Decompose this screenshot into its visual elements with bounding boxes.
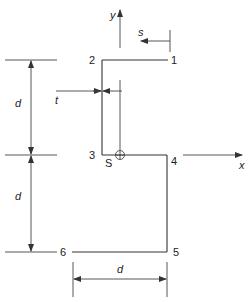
point-3-label: 3 [89, 149, 95, 161]
left-dimensions: d d [5, 60, 57, 252]
x-axis: x [183, 155, 245, 171]
x-axis-label: x [238, 159, 245, 171]
s-label: s [138, 26, 144, 38]
shear-center: S [105, 151, 125, 170]
shear-center-label: S [105, 157, 112, 169]
point-5-label: 5 [173, 246, 179, 258]
bottom-dimension: d [73, 262, 167, 297]
point-4-label: 4 [171, 155, 177, 167]
y-axis-label: y [109, 9, 117, 21]
point-2-label: 2 [89, 54, 95, 66]
point-6-label: 6 [60, 246, 66, 258]
upper-height-label: d [15, 97, 22, 109]
point-1-label: 1 [171, 54, 177, 66]
lower-height-label: d [15, 190, 22, 202]
section-diagram: y x S s 1 2 3 4 5 6 t d d [0, 0, 251, 302]
thickness-label: t [55, 94, 59, 106]
thickness-indicator: t [55, 91, 122, 106]
y-axis: y [109, 9, 120, 150]
s-coordinate: s [138, 26, 170, 52]
bottom-width-label: d [117, 263, 124, 275]
